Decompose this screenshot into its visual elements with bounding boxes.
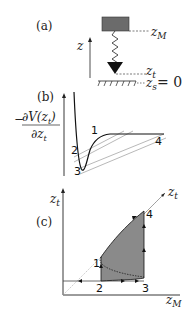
- force-curve: [74, 92, 164, 170]
- cantilever-block: [102, 17, 129, 31]
- point-2-label: 2: [71, 144, 78, 157]
- z-axis-label: z: [76, 39, 84, 53]
- panel-a: (a) zM zt z zs= 0: [36, 17, 182, 92]
- force-label-numerator: ∂V(zt): [22, 110, 56, 126]
- zM-label: zM: [150, 25, 167, 41]
- panel-c: zt zM (c) zt 1 2 3 4: [36, 185, 182, 309]
- force-label-denominator: ∂zt: [31, 127, 48, 143]
- panel-b-label: (b): [37, 90, 54, 104]
- panel-a-label: (a): [36, 19, 53, 33]
- hysteresis-region: [101, 211, 144, 281]
- point-1-label: 1: [91, 124, 98, 137]
- tangent-lines: [74, 131, 166, 174]
- tip-icon: [107, 62, 123, 74]
- panel-c-label: (c): [36, 215, 52, 229]
- panel-b: (b) − ∂V(zt) ∂zt 1 2 3 4: [14, 90, 166, 178]
- zs-label: zs= 0: [145, 74, 182, 92]
- zt-axis-label: zt: [49, 192, 60, 208]
- surface-hatch: [98, 81, 136, 86]
- spring-icon: [112, 31, 118, 65]
- arrow-up-icon: [61, 188, 65, 193]
- point-2-label: 2: [96, 282, 103, 295]
- point-4-label: 4: [146, 208, 153, 221]
- point-1-label: 1: [93, 257, 100, 270]
- point-4-label: 4: [155, 135, 162, 148]
- arrow-up-icon: [88, 37, 92, 42]
- diag-label: zt: [167, 185, 178, 201]
- point-3-label: 3: [74, 165, 81, 178]
- arrow-up-icon: [62, 93, 66, 98]
- afm-diagram: (a) zM zt z zs= 0 (b) − ∂V(zt: [0, 0, 194, 314]
- point-3-label: 3: [142, 282, 149, 295]
